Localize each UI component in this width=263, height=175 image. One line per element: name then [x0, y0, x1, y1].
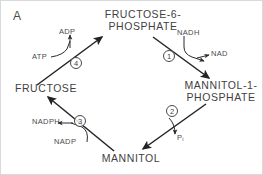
metabolite-mannitol-1-phosphate-line2: PHOSPHATE — [187, 91, 256, 103]
arrow-pi-out — [169, 118, 175, 134]
panel-letter: A — [13, 10, 22, 23]
cofactor-curve-atp-to-adp — [51, 41, 70, 57]
cofactor-label-pi-subscript: i — [182, 136, 183, 142]
metabolite-fructose-6-phosphate-line1: FRUCTOSE-6- — [105, 8, 181, 20]
cofactor-label-nadh: NADH — [177, 29, 200, 37]
step-number-1: 1 — [163, 50, 175, 62]
metabolite-fructose-6-phosphate-line2: PHOSPHATE — [109, 20, 178, 32]
cofactor-label-adp: ADP — [59, 28, 75, 36]
metabolite-fructose: FRUCTOSE — [9, 83, 83, 95]
step-number-2: 2 — [166, 105, 178, 117]
mannitol-cycle-diagram: A FRUCTOSE-6- PHOSPHATE MANNITOL-1- PHOS… — [0, 0, 263, 175]
metabolite-mannitol-1-phosphate-line1: MANNITOL-1- — [185, 79, 258, 91]
step-number-4: 4 — [70, 57, 82, 69]
metabolite-fructose-6-phosphate: FRUCTOSE-6- PHOSPHATE — [97, 9, 189, 33]
step-number-3: 3 — [74, 115, 86, 127]
cofactor-label-nadph: NADPH — [32, 118, 60, 126]
cofactor-label-pi: Pi — [177, 134, 184, 142]
cofactor-label-nadp: NADP — [54, 138, 76, 146]
metabolite-fructose-line1: FRUCTOSE — [15, 82, 77, 94]
metabolite-mannitol-line1: MANNITOL — [102, 152, 160, 164]
cofactor-label-nad: NAD — [211, 50, 228, 58]
metabolite-mannitol: MANNITOL — [89, 153, 173, 165]
metabolite-mannitol-1-phosphate: MANNITOL-1- PHOSPHATE — [179, 80, 263, 104]
arrow-nad-out — [197, 55, 209, 58]
cofactor-label-atp: ATP — [32, 53, 47, 61]
